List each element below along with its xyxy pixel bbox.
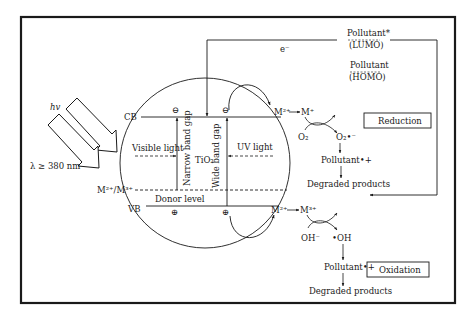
tio2-label: TiO₂ xyxy=(195,155,214,165)
oxidation-m-start: M²⁺ xyxy=(271,205,288,215)
wavelength-label: λ ≥ 380 nm xyxy=(30,161,80,171)
oxidation-box-label: Oxidation xyxy=(379,265,421,275)
oxidation-products: Degraded products xyxy=(309,286,392,296)
uv-light-label: UV light xyxy=(237,142,273,152)
hv-label: hv xyxy=(50,102,60,112)
oxidation-hydroxide: OH⁻ xyxy=(301,233,320,243)
reduction-box-label: Reduction xyxy=(378,116,422,126)
reduction-m-start: M²⁺ xyxy=(274,107,291,117)
reduction-o2: O₂ xyxy=(298,132,308,142)
reduction-m-end: M⁺ xyxy=(301,107,314,117)
pollutant-excited-label: Pollutant* xyxy=(347,28,391,38)
photocatalysis-diagram: hv λ ≥ 380 nm CB VB M²⁺/M³⁺ Donor level … xyxy=(0,0,465,317)
narrow-gap-label: Narrow band gap xyxy=(182,110,192,186)
dopant-level-label: M²⁺/M³⁺ xyxy=(97,185,133,195)
oxidation-cross-curve-2 xyxy=(308,221,337,230)
electron-label: e⁻ xyxy=(280,44,290,54)
electron-narrow: ⊖ xyxy=(172,105,179,115)
oxidation-hydroxyl: •OH xyxy=(332,233,351,243)
cb-label: CB xyxy=(124,112,137,122)
hole-wide: ⊕ xyxy=(222,207,229,217)
reduction-products: Degraded products xyxy=(307,179,390,189)
electron-wide: ⊖ xyxy=(222,105,229,115)
vb-label: VB xyxy=(127,204,140,214)
lumo-label: (LUMO) xyxy=(349,40,384,50)
cb-to-metal-arrow xyxy=(229,85,270,110)
visible-light-label: Visible light xyxy=(131,143,184,153)
reduction-radical-pollutant: Pollutant•+ xyxy=(321,155,372,165)
hole-narrow: ⊕ xyxy=(171,207,178,217)
pollutant-ground-label: Pollutant xyxy=(350,60,389,70)
oxidation-m-end: M³⁺ xyxy=(300,205,317,215)
donor-level-label: Donor level xyxy=(155,194,205,204)
homo-label: (HOMO) xyxy=(349,72,386,82)
reduction-superoxide: O₂•⁻ xyxy=(336,132,356,142)
